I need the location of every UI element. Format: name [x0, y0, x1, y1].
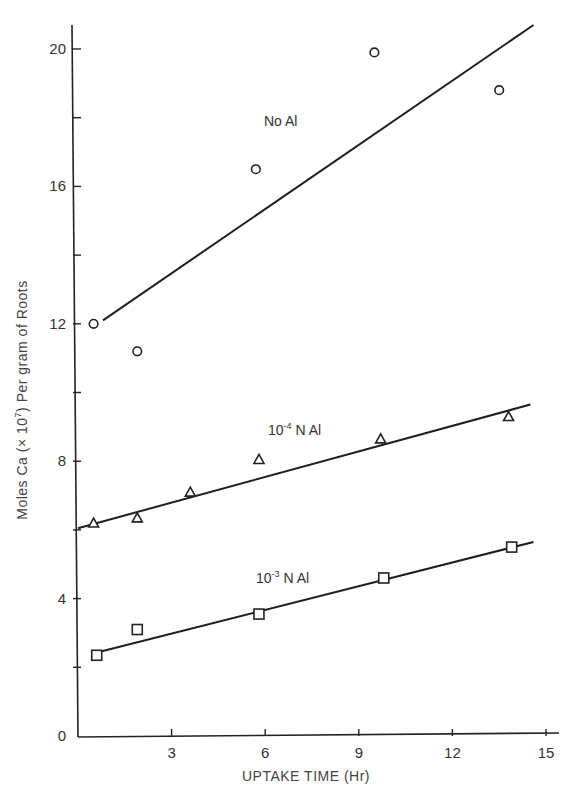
fit-line: [103, 25, 534, 320]
circle-marker: [370, 48, 379, 57]
y-axis-title: Moles Ca (× 107) Per gram of Roots: [13, 280, 30, 520]
circle-marker: [495, 86, 504, 95]
triangle-marker: [132, 513, 142, 522]
x-tick-label: 9: [355, 744, 363, 761]
square-marker: [254, 609, 264, 619]
triangle-marker: [185, 487, 195, 496]
x-tick-label: 6: [261, 744, 269, 761]
x-tick-label: 12: [444, 744, 461, 761]
y-axis: [72, 25, 78, 737]
label-no-al: No Al: [264, 113, 297, 129]
x-tick-label: 3: [167, 744, 175, 761]
triangle-marker: [504, 412, 514, 421]
square-marker: [507, 542, 517, 552]
square-marker: [379, 573, 389, 583]
circle-marker: [89, 320, 98, 329]
x-axis-title: UPTAKE TIME (Hr): [242, 768, 370, 784]
y-tick-label: 0: [58, 727, 66, 744]
series-1e-3-n-al: [92, 542, 534, 660]
circle-marker: [133, 347, 142, 356]
square-marker: [132, 625, 142, 635]
triangle-marker: [254, 454, 264, 463]
circle-marker: [252, 165, 261, 174]
y-tick-label: 20: [49, 40, 66, 57]
x-axis: [78, 733, 559, 737]
y-tick-label: 12: [49, 315, 66, 332]
fit-line: [100, 542, 534, 652]
x-tick-label: 15: [538, 744, 555, 761]
y-tick-label: 16: [49, 177, 66, 194]
y-tick-label: 4: [58, 590, 66, 607]
series-no-al: [89, 25, 533, 356]
chart-canvas: 048121620 3691215 UPTAKE TIME (Hr) Moles…: [0, 0, 562, 793]
y-tick-label: 8: [58, 452, 66, 469]
square-marker: [92, 650, 102, 660]
label-1e-4-n-al: 10-4 N Al: [268, 421, 321, 438]
label-1e-3-n-al: 10-3 N Al: [256, 569, 309, 586]
y-ticks: 048121620: [49, 40, 81, 744]
triangle-marker: [376, 434, 386, 443]
